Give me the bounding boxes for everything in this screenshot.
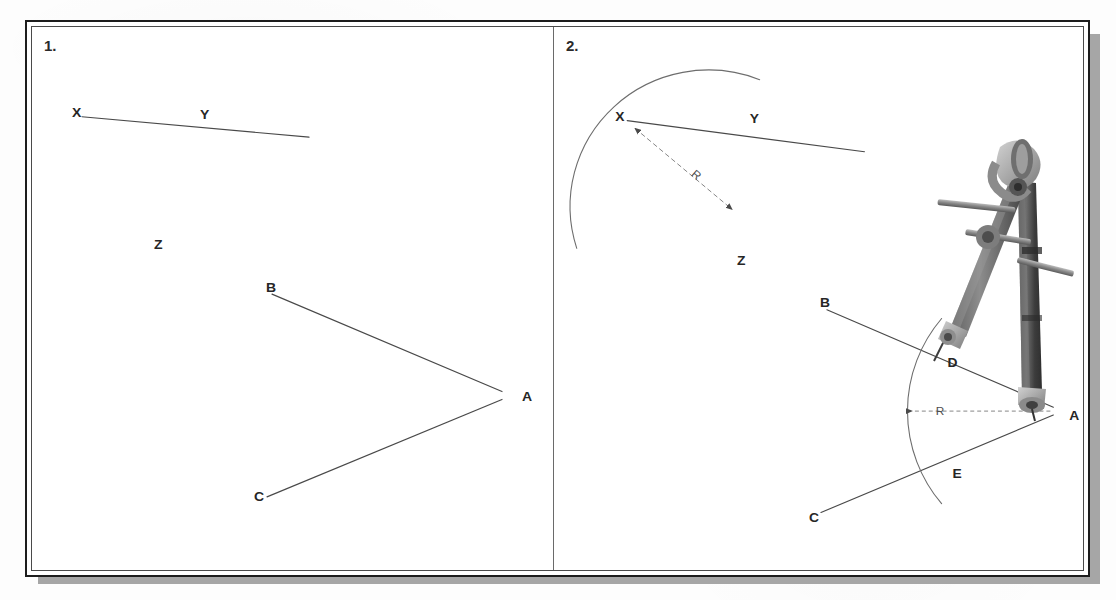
label-a-panel1: A [522, 389, 532, 405]
compass-right-leg [1018, 181, 1042, 395]
compass-svg [926, 129, 1086, 429]
label-b-panel1: B [266, 279, 276, 295]
compass-point-ferrule [1018, 387, 1046, 421]
panel-step-2: 2. X Y [554, 27, 1083, 570]
radius-arrow-upper [635, 128, 732, 209]
segment-xy [82, 117, 309, 137]
compass-adjust-rods [937, 199, 1074, 277]
label-y-panel1: Y [200, 106, 209, 122]
label-c-panel2: C [809, 510, 819, 525]
panel-1-figure-layer: X Y Z B A C [32, 27, 553, 570]
segment-ba [272, 294, 502, 391]
drawing-frame-inner-rule: 1. X Y Z B A C 2. [31, 26, 1084, 571]
segment-xy-panel2 [627, 121, 864, 152]
compass-tool-illustration [926, 129, 1086, 429]
arc-z [570, 70, 760, 248]
drawing-frame: 1. X Y Z B A C 2. [25, 20, 1090, 577]
panel-step-1: 1. X Y Z B A C [32, 27, 553, 570]
label-x-panel2: X [615, 109, 625, 124]
label-y-panel2: Y [750, 111, 759, 126]
label-z-panel2: Z [737, 253, 745, 268]
segment-ac [267, 399, 502, 496]
label-r-upper: R [689, 167, 704, 182]
label-e-panel2: E [952, 466, 961, 481]
label-x-panel1: X [72, 104, 82, 120]
scanned-page: 1. X Y Z B A C 2. [0, 0, 1116, 600]
label-c-panel1: C [254, 488, 264, 504]
label-b-panel2: B [820, 295, 830, 310]
label-z-panel1: Z [154, 236, 163, 252]
